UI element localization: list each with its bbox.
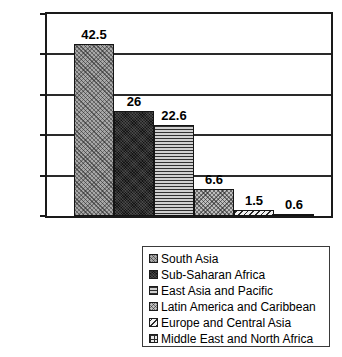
legend-swatch-icon xyxy=(149,254,158,263)
bar-value-label: 26 xyxy=(108,95,160,108)
legend-swatch-icon xyxy=(149,334,158,343)
legend-item-label: East Asia and Pacific xyxy=(161,285,273,297)
legend-swatch-icon xyxy=(149,270,158,279)
bar-6[interactable] xyxy=(274,214,314,216)
bar-value-label: 0.6 xyxy=(268,198,320,211)
bars-layer: 42.52622.66.61.50.6 xyxy=(47,14,331,216)
bar-chart-figure: 01020304050 42.52622.66.61.50.6 South As… xyxy=(0,0,342,357)
legend-swatch-icon xyxy=(149,286,158,295)
legend-item[interactable]: East Asia and Pacific xyxy=(149,283,329,298)
bar-value-label: 42.5 xyxy=(68,28,120,41)
bar-2[interactable] xyxy=(114,111,154,216)
legend-item-label: South Asia xyxy=(161,253,218,265)
legend-item[interactable]: Middle East and North Africa xyxy=(149,331,329,346)
legend-item[interactable]: South Asia xyxy=(149,251,329,266)
legend-swatch-icon xyxy=(149,318,158,327)
legend-item-label: Middle East and North Africa xyxy=(161,333,313,345)
legend-item-label: Europe and Central Asia xyxy=(161,317,291,329)
bar-1[interactable] xyxy=(74,44,114,216)
legend-item[interactable]: Europe and Central Asia xyxy=(149,315,329,330)
legend-item-label: Sub-Saharan Africa xyxy=(161,269,265,281)
bar-5[interactable] xyxy=(234,210,274,216)
bar-value-label: 6.6 xyxy=(188,173,240,186)
legend-item[interactable]: Sub-Saharan Africa xyxy=(149,267,329,282)
legend-swatch-icon xyxy=(149,302,158,311)
legend-item-label: Latin America and Caribbean xyxy=(161,301,316,313)
bar-3[interactable] xyxy=(154,125,194,216)
legend-item[interactable]: Latin America and Caribbean xyxy=(149,299,329,314)
chart-legend: South AsiaSub-Saharan AfricaEast Asia an… xyxy=(142,246,330,347)
bar-value-label: 22.6 xyxy=(148,109,200,122)
